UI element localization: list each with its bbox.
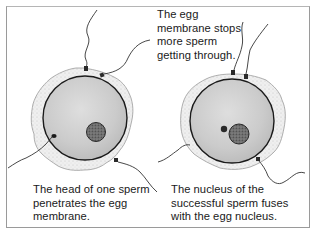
annotation-membrane-block: The egg membrane stops more sperm gettin… (157, 8, 241, 62)
caption-line: membrane. (33, 210, 150, 224)
annotation-line: getting through. (157, 49, 241, 63)
egg-nucleus (87, 123, 106, 142)
cytoplasm (190, 79, 274, 163)
fusing-nucleus (229, 124, 249, 144)
sperm-head (84, 66, 88, 71)
sperm-tail (104, 40, 150, 74)
caption-right-panel: The nucleus of the successful sperm fuse… (171, 183, 288, 224)
sperm-tail (158, 145, 190, 162)
sperm-nucleus (221, 126, 227, 132)
caption-line: The head of one sperm (33, 183, 150, 197)
blocked-sperm-head (231, 70, 235, 75)
left-egg (8, 10, 157, 192)
caption-left-panel: The head of one sperm penetrates the egg… (33, 183, 150, 224)
sperm-head (114, 158, 118, 162)
sperm-tail (258, 160, 305, 184)
penetrating-sperm-head (51, 134, 56, 138)
sperm-tail (246, 24, 268, 74)
annotation-line: The egg (157, 8, 241, 22)
annotation-line: membrane stops (157, 22, 241, 36)
blocked-sperm-head (244, 74, 248, 79)
caption-line: with the egg nucleus. (171, 210, 288, 224)
sperm-tail (85, 10, 97, 68)
caption-line: The nucleus of the (171, 183, 288, 197)
annotation-line: more sperm (157, 35, 241, 49)
sperm-head (256, 157, 260, 161)
cytoplasm (43, 76, 127, 160)
caption-line: successful sperm fuses (171, 197, 288, 211)
caption-line: penetrates the egg (33, 197, 150, 211)
